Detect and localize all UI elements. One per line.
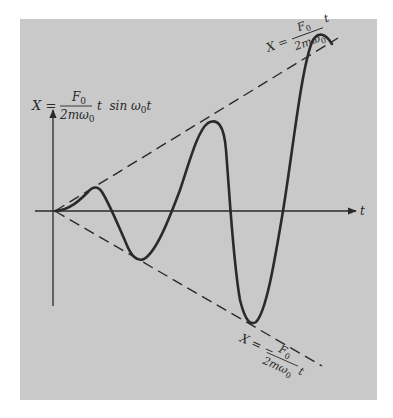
svg-text:2mω0: 2mω0 [259, 354, 295, 381]
x-axis-label: t [360, 204, 365, 218]
equation-main: X = F0 2mω0 t sin ω0t [31, 90, 152, 124]
svg-text:t: t [297, 365, 307, 379]
response-curve [55, 35, 332, 324]
svg-text:F0: F0 [294, 17, 312, 36]
svg-text:F0: F0 [71, 90, 86, 106]
svg-text:t sin ω0t: t sin ω0t [97, 99, 152, 115]
svg-text:2mω0: 2mω0 [59, 108, 95, 124]
lower-envelope-label: X = − F0 2mω0 t [232, 326, 312, 385]
svg-text:X =: X = [263, 34, 290, 55]
svg-text:t: t [322, 11, 331, 25]
svg-text:X =: X = [31, 98, 56, 113]
resonance-diagram: X = F0 2mω0 t sin ω0t X = F0 2mω0 t X = … [0, 0, 393, 418]
